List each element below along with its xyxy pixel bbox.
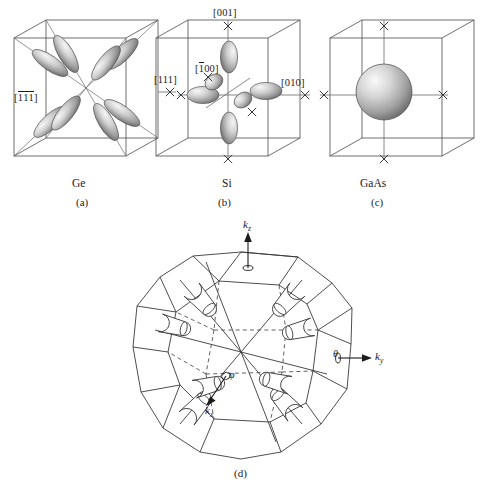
axis-subscript: y bbox=[380, 356, 383, 365]
panel-c-material-label: GaAs bbox=[360, 177, 386, 189]
si-direction-label-m100: [100] bbox=[195, 63, 219, 74]
panel-a-id-label: (a) bbox=[76, 196, 88, 208]
ge-111-axis-marker bbox=[158, 88, 176, 96]
panel-c-id-label: (c) bbox=[371, 196, 383, 208]
overbar-digit: 1 bbox=[199, 63, 204, 74]
axis-subscript: z bbox=[248, 224, 251, 233]
panel-b-id-label: (b) bbox=[218, 196, 231, 208]
bz-axis-label-kx: kx bbox=[205, 404, 213, 419]
panel-d-id-label: (d) bbox=[234, 467, 247, 479]
bz-axis-label-ky: ky bbox=[375, 350, 383, 365]
panel-b-material-label: Si bbox=[222, 177, 232, 189]
si-direction-label-001: [001] bbox=[213, 7, 237, 18]
bz-111-axes bbox=[155, 262, 327, 442]
panel-a-material-label: Ge bbox=[72, 177, 85, 189]
overbar-digit: 1 bbox=[29, 92, 34, 103]
panel-b-si bbox=[156, 20, 310, 163]
semiconductor-energy-surface-figure: [111] [111] Ge (a) [001] [100] [010] Si … bbox=[0, 0, 482, 494]
si-direction-label-010: [010] bbox=[281, 77, 305, 88]
bz-l-valley-surfaces bbox=[158, 283, 315, 425]
gaas-constant-energy-sphere bbox=[356, 64, 412, 120]
bz-axis-label-kz: kz bbox=[243, 218, 251, 233]
bz-kz-arrow bbox=[243, 232, 253, 270]
figure-svg bbox=[0, 0, 482, 494]
panel-a-ge bbox=[14, 20, 176, 156]
bz-angle-label-theta: θ bbox=[333, 348, 338, 359]
panel-c-gaas bbox=[320, 20, 474, 163]
ge-direction-label-m1m1m1: [111] bbox=[14, 92, 38, 103]
panel-d-brillouin-zone bbox=[133, 232, 372, 459]
axis-subscript: x bbox=[210, 410, 213, 419]
bz-ky-arrow bbox=[336, 353, 372, 363]
ge-direction-label-111: [111] bbox=[154, 74, 177, 85]
bz-angle-label-phi: φ bbox=[229, 369, 235, 380]
